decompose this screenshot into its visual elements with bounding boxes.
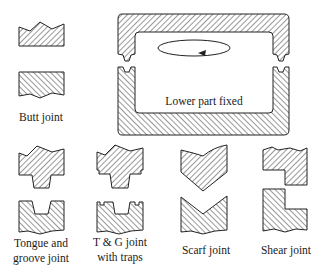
scarf-label: Scarf joint <box>182 244 231 257</box>
butt-joint: Butt joint <box>19 22 64 124</box>
tg-traps-upper-piece <box>97 145 143 188</box>
rotation-ellipse <box>158 40 230 56</box>
shear-label: Shear joint <box>261 244 312 257</box>
tg-traps-label-line1: T & G joint <box>93 236 148 249</box>
tg-traps-label-line2: with traps <box>97 251 143 264</box>
scarf-lower-piece <box>181 196 227 234</box>
joint-types-diagram: Butt joint Lower part fixed Tongue and g… <box>0 0 324 276</box>
tongue-groove-joint: Tongue and groove joint <box>13 146 70 265</box>
tongue-groove-lower-piece <box>19 201 64 234</box>
butt-joint-lower-piece <box>19 72 64 98</box>
scarf-joint: Scarf joint <box>181 145 231 257</box>
scarf-upper-piece <box>181 145 227 191</box>
butt-joint-upper-piece <box>19 22 64 46</box>
shear-joint: Shear joint <box>261 147 312 257</box>
mold-label: Lower part fixed <box>165 95 243 108</box>
shear-upper-piece <box>263 147 307 185</box>
tongue-groove-label-line2: groove joint <box>13 252 70 265</box>
tongue-groove-label-line1: Tongue and <box>14 237 68 250</box>
tg-traps-joint: T & G joint with traps <box>93 145 148 264</box>
mold-assembly: Lower part fixed <box>118 14 289 135</box>
butt-joint-label: Butt joint <box>19 111 64 124</box>
tongue-groove-upper-piece <box>19 146 64 188</box>
tg-traps-lower-piece <box>97 202 143 234</box>
shear-lower-piece <box>263 189 307 232</box>
rotation-arrowhead-icon <box>198 50 206 56</box>
